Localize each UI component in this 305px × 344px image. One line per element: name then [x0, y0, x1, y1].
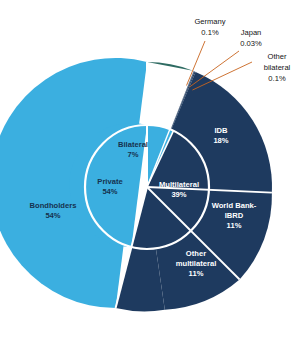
- label-idb-name: IDB: [214, 126, 228, 135]
- callout-other-bilateral-line2: bilateral: [264, 63, 291, 72]
- label-private-name: Private: [97, 177, 122, 186]
- label-other-multilateral-pct: 11%: [189, 269, 204, 278]
- label-world-bank-pct: 11%: [227, 221, 242, 230]
- callout-japan-name: Japan: [241, 28, 262, 37]
- label-bondholders-name: Bondholders: [30, 201, 77, 210]
- label-china-name: China: [160, 78, 182, 87]
- label-bilateral-name: Bilateral: [118, 140, 148, 149]
- callout-germany-name: Germany: [194, 17, 225, 26]
- callout-other-bilateral-line1: Other: [268, 52, 287, 61]
- label-world-bank-line1: World Bank-: [212, 201, 257, 210]
- label-idb-pct: 18%: [213, 136, 228, 145]
- label-multilateral-pct: 39%: [171, 190, 186, 199]
- leader-line-japan: [190, 51, 240, 87]
- label-china-pct: 6%: [166, 88, 177, 97]
- outer-slice-china[interactable]: [147, 62, 193, 71]
- label-bilateral-pct: 7%: [128, 150, 139, 159]
- pie-chart-svg: Bondholders 54% China 6% IDB 18% World B…: [0, 0, 305, 344]
- label-multilateral-name: Multilateral: [159, 180, 199, 189]
- callout-germany-pct: 0.1%: [201, 28, 219, 37]
- callout-japan-pct: 0.03%: [240, 39, 262, 48]
- label-other-multilateral-line2: multilateral: [176, 259, 217, 268]
- label-bondholders-pct: 54%: [45, 211, 60, 220]
- label-world-bank-line2: IBRD: [225, 211, 244, 220]
- label-private-pct: 54%: [102, 187, 117, 196]
- donut-chart: Bondholders 54% China 6% IDB 18% World B…: [0, 0, 305, 344]
- callout-other-bilateral-pct: 0.1%: [268, 74, 286, 83]
- label-other-multilateral-line1: Other: [186, 249, 206, 258]
